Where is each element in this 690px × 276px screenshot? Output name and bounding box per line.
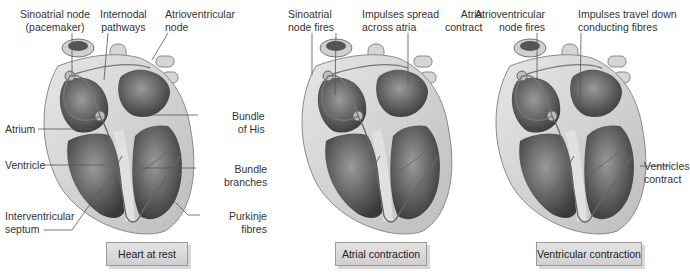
leader-lines xyxy=(0,0,686,276)
